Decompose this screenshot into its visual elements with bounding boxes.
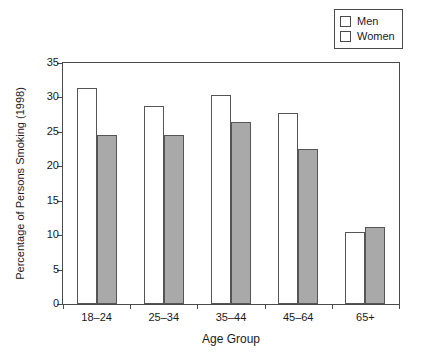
legend-label-men: Men <box>357 16 378 27</box>
x-axis-category-label: 18–24 <box>67 311 127 324</box>
x-axis-category-label: 25–34 <box>134 311 194 324</box>
legend-swatch-women-icon <box>340 31 351 42</box>
bar-women-3 <box>298 149 318 304</box>
x-axis-category-label: 45–64 <box>268 311 328 324</box>
y-axis-tick-label: 5 <box>53 263 59 276</box>
bar-men-0 <box>77 88 97 304</box>
bar-men-4 <box>345 232 365 304</box>
bar-women-1 <box>164 135 184 304</box>
x-axis-tick-mark <box>399 304 400 309</box>
bar-women-4 <box>365 227 385 304</box>
x-axis-tick-mark <box>332 304 333 309</box>
x-axis-tick-mark <box>197 304 198 309</box>
legend-item-women: Women <box>340 29 395 44</box>
x-axis-tick-mark <box>63 304 64 309</box>
y-axis-tick-label: 30 <box>47 90 59 103</box>
bar-men-2 <box>211 95 231 304</box>
y-axis-title-text: Percentage of Persons Smoking (1998) <box>13 62 27 305</box>
x-axis-category-label: 35–44 <box>201 311 261 324</box>
y-axis-tick-label: 20 <box>47 159 59 172</box>
y-axis-tick-label: 0 <box>53 297 59 310</box>
legend-label-women: Women <box>357 31 395 42</box>
plot-area: 05101520253035 <box>63 63 399 304</box>
y-axis-tick-label: 35 <box>47 56 59 69</box>
legend-swatch-men-icon <box>340 16 351 27</box>
bar-men-3 <box>278 113 298 304</box>
bar-men-1 <box>144 106 164 304</box>
plot-frame: 05101520253035 <box>62 62 400 305</box>
y-axis-tick-label: 25 <box>47 125 59 138</box>
x-axis-tick-mark <box>265 304 266 309</box>
x-axis-tick-mark <box>130 304 131 309</box>
bar-women-2 <box>231 122 251 304</box>
bar-chart-figure: Men Women Percentage of Persons Smoking … <box>0 0 424 361</box>
y-axis-tick-label: 10 <box>47 228 59 241</box>
chart-legend: Men Women <box>334 9 403 49</box>
bar-women-0 <box>97 135 117 304</box>
x-axis-title: Age Group <box>62 332 400 346</box>
legend-item-men: Men <box>340 14 395 29</box>
y-axis-tick-label: 15 <box>47 194 59 207</box>
x-axis-category-label: 65+ <box>335 311 395 324</box>
y-axis-title: Percentage of Persons Smoking (1998) <box>13 0 27 62</box>
